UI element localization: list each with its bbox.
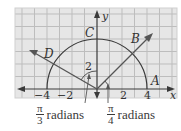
fraction-pi-over-4: π 4 [107, 103, 115, 126]
x-tick-2-label: 2 [120, 89, 127, 102]
point-d-label: D [43, 47, 54, 61]
x-axis-label: x [170, 89, 177, 102]
caption-pi-over-4: π 4 radians [107, 103, 155, 126]
caption-text: radians [118, 107, 156, 123]
fraction-pi-over-3: π 3 [36, 103, 44, 126]
caption-pi-over-3: π 3 radians [36, 103, 84, 126]
fraction-denominator: 3 [37, 115, 43, 126]
y-tick-2-label: 2 [85, 60, 92, 73]
y-axis-label: y [101, 10, 109, 23]
x-tick-4-label: 4 [144, 89, 151, 102]
x-tick-neg2-label: −2 [57, 89, 73, 102]
fraction-denominator: 4 [108, 115, 114, 126]
x-tick-neg4-label: −4 [34, 89, 50, 102]
point-c-label: C [85, 26, 94, 40]
caption-text: radians [47, 107, 85, 123]
point-b-label: B [130, 32, 140, 46]
point-a-label: A [150, 74, 160, 88]
unit-circle-diagram: y x C B D A 2 −4 −2 2 4 π 3 radians π 4 … [0, 0, 181, 131]
